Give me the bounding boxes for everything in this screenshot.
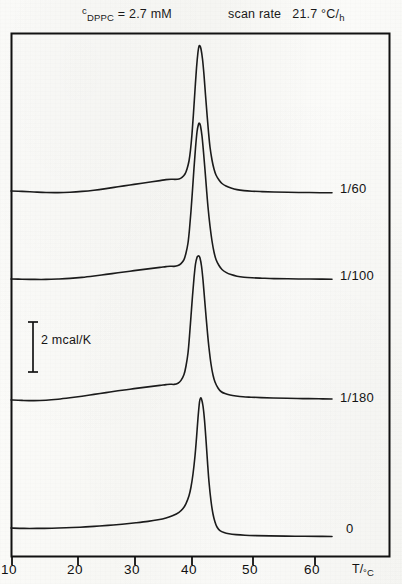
scale-bar-label: 2 mcal/K bbox=[41, 333, 91, 347]
thermogram-curves bbox=[11, 46, 332, 537]
x-tick-label-10: 10 bbox=[1, 562, 17, 577]
axis-title-main: T/ bbox=[352, 562, 363, 576]
curve-0 bbox=[11, 398, 332, 537]
x-tick-label-30: 30 bbox=[124, 562, 140, 577]
x-axis-title: T/°C bbox=[352, 562, 374, 576]
curve-label-0: 0 bbox=[346, 521, 354, 536]
dsc-thermogram-plot bbox=[0, 0, 402, 584]
curve-label-1-100: 1/100 bbox=[340, 268, 374, 283]
axis-title-sub: °C bbox=[363, 567, 374, 578]
x-tick-label-20: 20 bbox=[67, 562, 83, 577]
x-tick-label-50: 50 bbox=[242, 562, 258, 577]
x-tick-label-40: 40 bbox=[181, 562, 197, 577]
curve-label-1-180: 1/180 bbox=[340, 390, 374, 405]
curve-label-1-60: 1/60 bbox=[340, 181, 367, 196]
x-tick-label-60: 60 bbox=[304, 562, 320, 577]
plot-frame bbox=[12, 34, 390, 557]
curve-1-60 bbox=[11, 46, 332, 193]
curve-1-100 bbox=[11, 123, 332, 279]
scale-bar bbox=[28, 322, 38, 372]
curve-1-180 bbox=[11, 256, 332, 401]
